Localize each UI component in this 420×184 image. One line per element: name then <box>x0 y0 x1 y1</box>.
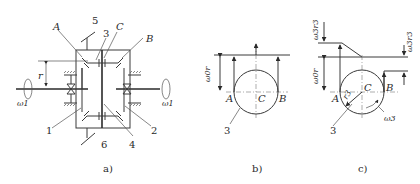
label-c-A: A <box>331 93 339 104</box>
caption-c: c) <box>358 163 368 174</box>
panel-b-velocity <box>214 44 290 124</box>
label-c-C: C <box>364 82 372 93</box>
label-c-velocity-right: ω3r3 <box>405 31 414 52</box>
label-b-velocity: ω0r <box>203 65 212 82</box>
label-part-3: 3 <box>103 28 109 39</box>
label-c-omega3: ω3 <box>384 114 396 123</box>
label-c-r3: r3 <box>341 89 353 101</box>
label-omega1-right: ω1 <box>162 99 174 108</box>
label-c-B: B <box>385 82 393 93</box>
label-b-part-3: 3 <box>224 125 230 136</box>
caption-b: b) <box>252 163 262 174</box>
label-r: r <box>38 70 44 81</box>
label-part-6: 6 <box>101 139 107 150</box>
label-c-velocity-center: ω0r <box>311 67 320 84</box>
label-part-5: 5 <box>92 15 98 26</box>
label-part-2: 2 <box>151 125 157 136</box>
label-c-part-3: 3 <box>330 125 336 136</box>
label-a-C: C <box>116 21 124 32</box>
label-omega1-left: ω1 <box>17 99 29 108</box>
panel-a-mechanism <box>16 30 170 145</box>
label-c-velocity-top: ω3r3 <box>311 19 320 40</box>
label-part-1: 1 <box>46 125 52 136</box>
label-b-A: A <box>225 93 233 104</box>
panel-c-velocity <box>318 22 408 126</box>
rotation-right-icon <box>162 79 170 99</box>
label-b-B: B <box>278 93 286 104</box>
gear-6 <box>81 133 95 145</box>
gear-5 <box>81 32 95 42</box>
differential-diagram: A 3 C B 5 r ω1 ω1 1 2 6 4 a) ω0r A C B 3… <box>0 0 420 184</box>
caption-a: a) <box>103 163 113 174</box>
label-a-B: B <box>145 33 153 44</box>
label-a-A: A <box>52 21 60 32</box>
label-part-4: 4 <box>129 139 135 150</box>
label-b-C: C <box>258 93 266 104</box>
